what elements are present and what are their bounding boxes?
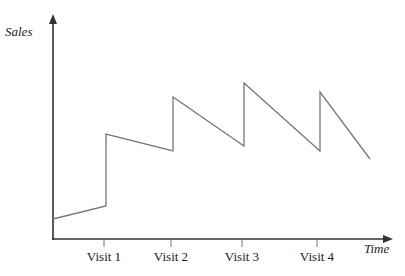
x-ticks: Visit 1Visit 2Visit 3Visit 4: [87, 239, 335, 264]
y-axis-label: Sales: [5, 24, 32, 39]
sales-chart: Visit 1Visit 2Visit 3Visit 4 Sales Time: [0, 0, 405, 276]
x-tick-label: Visit 1: [87, 249, 121, 264]
x-tick-label: Visit 2: [154, 249, 188, 264]
x-tick-label: Visit 3: [225, 249, 259, 264]
sales-line: [53, 83, 370, 219]
x-axis-label: Time: [364, 241, 390, 256]
y-axis-arrow-icon: [49, 14, 57, 24]
x-tick-label: Visit 4: [300, 249, 335, 264]
